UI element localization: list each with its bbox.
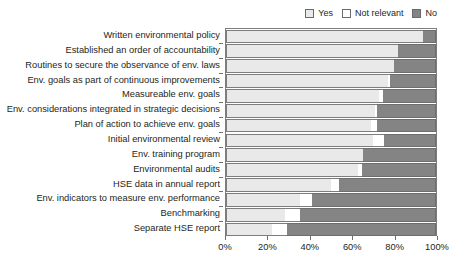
bar-segment-not-relevant: [272, 223, 287, 237]
bar-segment-yes: [226, 104, 375, 118]
category-label: Env. goals as part of continuous improve…: [27, 75, 220, 85]
category-tick: [219, 162, 223, 163]
plot-area: [225, 28, 437, 236]
bar-row: [226, 89, 436, 103]
bar-segment-yes: [226, 223, 272, 237]
bar-segment-yes: [226, 208, 285, 222]
chart-legend: Yes Not relevant No: [0, 8, 437, 18]
category-label: Routines to secure the observance of env…: [25, 60, 220, 70]
bar-segment-no: [377, 119, 436, 133]
value-tick: [352, 236, 353, 240]
bar-segment-no: [394, 59, 436, 73]
bar-row: [226, 119, 436, 133]
value-tick: [310, 236, 311, 240]
bar-segment-yes: [226, 178, 331, 192]
bar-segment-no: [398, 44, 436, 58]
value-axis: 0%20%40%60%80%100%: [225, 236, 437, 266]
category-tick: [219, 206, 223, 207]
bar-row: [226, 30, 436, 44]
value-tick-label: 0%: [218, 242, 231, 253]
legend-swatch-not-relevant: [342, 9, 351, 18]
category-axis: Written environmental policyEstablished …: [0, 28, 223, 236]
bar-row: [226, 104, 436, 118]
category-tick: [219, 58, 223, 59]
bar-row: [226, 134, 436, 148]
bar-segment-not-relevant: [300, 193, 313, 207]
value-tick: [225, 236, 226, 240]
legend-label-not-relevant: Not relevant: [355, 8, 404, 18]
legend-item-not-relevant[interactable]: Not relevant: [342, 8, 404, 18]
category-tick: [219, 132, 223, 133]
bar-segment-no: [339, 178, 436, 192]
category-label: Env. training program: [132, 149, 220, 159]
category-tick: [219, 117, 223, 118]
bar-segment-yes: [226, 193, 300, 207]
bar-segment-yes: [226, 74, 388, 88]
bar-segment-yes: [226, 30, 423, 44]
category-label: Plan of action to achieve env. goals: [74, 119, 220, 129]
bar-rows: [226, 29, 436, 235]
category-label: Benchmarking: [161, 208, 220, 218]
bar-segment-no: [300, 208, 437, 222]
bar-segment-not-relevant: [373, 134, 384, 148]
bar-segment-not-relevant: [285, 208, 300, 222]
category-tick: [219, 147, 223, 148]
category-label: Initial environmental review: [108, 134, 220, 144]
bar-segment-yes: [226, 59, 394, 73]
legend-item-yes[interactable]: Yes: [305, 8, 333, 18]
category-label: HSE data in annual report: [113, 179, 220, 189]
bar-segment-no: [384, 134, 437, 148]
bar-segment-yes: [226, 119, 371, 133]
bar-segment-no: [287, 223, 436, 237]
bar-row: [226, 59, 436, 73]
bar-segment-no: [423, 30, 436, 44]
category-tick: [219, 177, 223, 178]
legend-swatch-yes: [305, 9, 314, 18]
category-label: Env. considerations integrated in strate…: [7, 104, 220, 114]
bar-row: [226, 178, 436, 192]
bar-row: [226, 193, 436, 207]
legend-label-yes: Yes: [318, 8, 333, 18]
legend-item-no[interactable]: No: [412, 8, 437, 18]
bar-row: [226, 223, 436, 237]
value-tick-label: 60%: [343, 242, 362, 253]
bar-segment-no: [383, 89, 436, 103]
category-tick: [219, 221, 223, 222]
value-tick-label: 80%: [385, 242, 404, 253]
bar-row: [226, 208, 436, 222]
category-label: Environmental audits: [133, 164, 220, 174]
bar-row: [226, 44, 436, 58]
bar-segment-yes: [226, 134, 373, 148]
category-tick: [219, 43, 223, 44]
category-label: Established an order of accountability: [65, 45, 220, 55]
category-label: Separate HSE report: [134, 223, 220, 233]
category-tick: [219, 102, 223, 103]
bar-segment-yes: [226, 163, 358, 177]
bar-row: [226, 148, 436, 162]
bar-segment-no: [377, 104, 436, 118]
value-tick: [267, 236, 268, 240]
category-label: Written environmental policy: [103, 30, 220, 40]
legend-label-no: No: [425, 8, 437, 18]
bar-segment-no: [312, 193, 436, 207]
value-tick: [395, 236, 396, 240]
category-label: Env. indicators to measure env. performa…: [36, 193, 220, 203]
category-tick: [219, 87, 223, 88]
category-tick: [219, 73, 223, 74]
bar-row: [226, 163, 436, 177]
bar-segment-yes: [226, 44, 398, 58]
bar-segment-no: [390, 74, 436, 88]
category-label: Measureable env. goals: [122, 89, 220, 99]
category-tick: [219, 191, 223, 192]
bar-segment-no: [363, 148, 437, 162]
bar-segment-yes: [226, 89, 379, 103]
bar-segment-not-relevant: [331, 178, 339, 192]
bar-segment-no: [362, 163, 436, 177]
value-tick-label: 40%: [300, 242, 319, 253]
value-tick: [437, 236, 438, 240]
value-tick-label: 20%: [258, 242, 277, 253]
bar-segment-yes: [226, 148, 363, 162]
bar-row: [226, 74, 436, 88]
value-tick-label: 100%: [425, 242, 449, 253]
